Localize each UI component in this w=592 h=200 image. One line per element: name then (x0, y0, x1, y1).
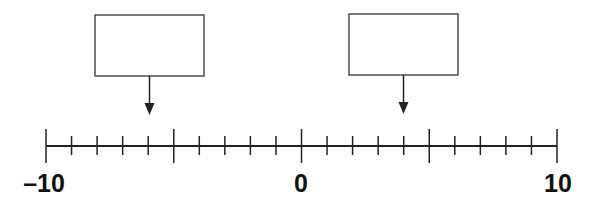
label-min: –10 (23, 169, 65, 197)
arrowhead-down-icon (399, 102, 409, 114)
label-zero: 0 (294, 169, 308, 197)
answer-box-left[interactable] (95, 15, 204, 76)
number-line-diagram: –10 0 10 (0, 0, 592, 200)
arrow-right (399, 75, 409, 114)
answer-box-right[interactable] (349, 14, 458, 75)
arrow-left (145, 76, 155, 115)
label-max: 10 (544, 169, 572, 197)
arrowhead-down-icon (145, 103, 155, 115)
